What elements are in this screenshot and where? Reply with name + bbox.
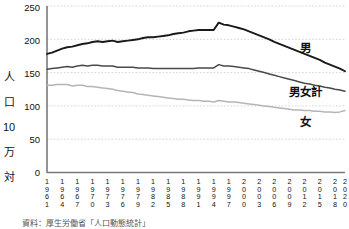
x-tick-digit: 5 (316, 201, 324, 209)
x-tick-2015: 2015 (316, 178, 324, 208)
x-tick-digit: 2 (149, 201, 157, 209)
x-tick-digit: 6 (119, 201, 127, 209)
x-tick-digit: 7 (73, 201, 81, 209)
x-tick-digit: 2 (301, 201, 309, 209)
x-tick-2018: 2018 (331, 178, 339, 208)
x-tick-digit: 0 (240, 201, 248, 209)
x-tick-1979: 1979 (134, 178, 142, 208)
x-tick-1991: 1991 (195, 178, 203, 208)
x-tick-1997: 1997 (225, 178, 233, 208)
x-tick-1961: 1961 (43, 178, 51, 208)
x-tick-digit: 4 (58, 201, 66, 209)
x-tick-1967: 1967 (73, 178, 81, 208)
x-tick-2012: 2012 (301, 178, 309, 208)
x-tick-1964: 1964 (58, 178, 66, 208)
x-tick-digit: 4 (210, 201, 218, 209)
series-label-female: 女 (300, 116, 311, 128)
y-tick-50: 50 (10, 135, 40, 145)
y-tick-100: 100 (10, 102, 40, 112)
x-tick-2020: 2020 (341, 178, 349, 208)
x-tick-2009: 2009 (285, 178, 293, 208)
x-tick-digit: 7 (225, 201, 233, 209)
x-tick-digit: 0 (88, 201, 96, 209)
x-tick-digit: 0 (341, 201, 349, 209)
y-tick-150: 150 (10, 69, 40, 79)
x-tick-digit: 1 (43, 201, 51, 209)
x-tick-digit: 5 (164, 201, 172, 209)
y-axis-unit-char-4: 万 (4, 146, 15, 158)
x-tick-digit: 9 (285, 201, 293, 209)
series-lines (47, 23, 345, 113)
source-caption: 資料：厚生労働省「人口動態統計」 (22, 219, 342, 228)
x-tick-1976: 1976 (119, 178, 127, 208)
x-tick-digit: 8 (331, 201, 339, 209)
plot-area (0, 0, 349, 229)
x-tick-digit: 3 (255, 201, 263, 209)
x-tick-digit: 3 (104, 201, 112, 209)
series-label-total: 男女計 (289, 86, 322, 98)
y-axis-unit-char-3: 10 (3, 121, 15, 133)
x-tick-1982: 1982 (149, 178, 157, 208)
x-tick-digit: 9 (134, 201, 142, 209)
x-tick-digit: 6 (270, 201, 278, 209)
x-tick-2006: 2006 (270, 178, 278, 208)
x-tick-1985: 1985 (164, 178, 172, 208)
series-label-male: 男 (300, 42, 311, 54)
x-tick-digit: 8 (179, 201, 187, 209)
x-tick-digit: 1 (195, 201, 203, 209)
x-tick-1988: 1988 (179, 178, 187, 208)
y-tick-200: 200 (10, 36, 40, 46)
x-tick-1994: 1994 (210, 178, 218, 208)
chart-container: 人 口 10 万 対 250 200 150 100 50 0 男 男女計 女 … (0, 0, 349, 229)
y-tick-0: 0 (10, 168, 40, 178)
x-tick-2000: 2000 (240, 178, 248, 208)
x-tick-2003: 2003 (255, 178, 263, 208)
x-tick-1973: 1973 (104, 178, 112, 208)
y-tick-250: 250 (10, 3, 40, 13)
x-tick-1970: 1970 (88, 178, 96, 208)
